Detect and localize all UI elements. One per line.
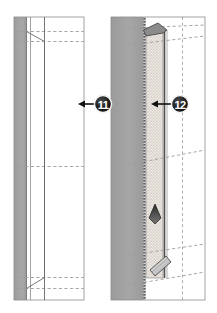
left-section-panel <box>14 17 84 300</box>
left-masonry-band <box>14 17 26 300</box>
right-membrane-strip <box>144 17 146 300</box>
figure-canvas: 11 12 <box>0 0 217 313</box>
left-interior-face <box>26 17 84 300</box>
callout-11-label: 11 <box>98 99 109 111</box>
technical-drawing: 11 12 <box>0 0 217 313</box>
right-masonry-band <box>111 17 144 300</box>
callout-12-label: 12 <box>174 99 186 111</box>
right-section-panel <box>111 17 205 300</box>
right-insulation-layer <box>146 30 163 278</box>
